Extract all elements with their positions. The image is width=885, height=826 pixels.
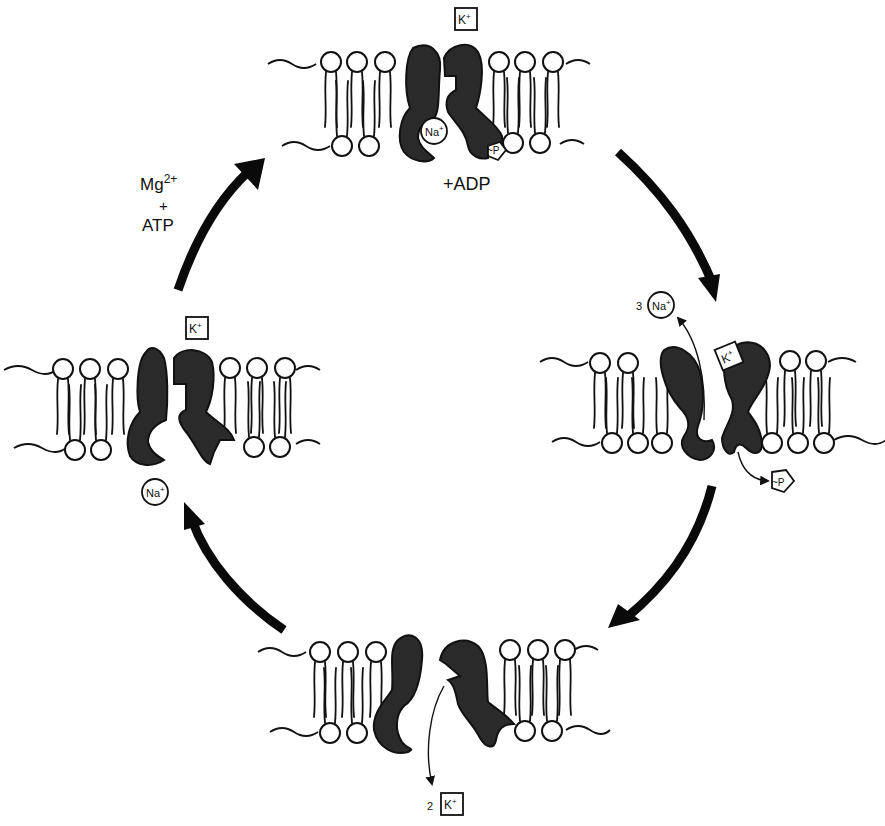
na-k-pump-cycle-diagram: Na+ ~P K+ +ADP K+ <box>0 0 885 826</box>
arrowhead <box>698 274 720 302</box>
phosphate-label: ~P <box>487 145 500 156</box>
state-right: K+ Na+ 3 ~P <box>540 292 885 492</box>
adp-label: +ADP <box>443 174 491 194</box>
na-count-label: 3 <box>636 300 642 312</box>
state-left: K+ Na+ <box>4 317 320 505</box>
pump-subunit-left <box>128 348 168 465</box>
svg-text:ATP: ATP <box>142 216 174 235</box>
cycle-arrow-left-to-top <box>178 172 248 290</box>
cycle-arrow-right-to-bottom <box>626 486 712 618</box>
phosphate-release-arrow <box>738 452 768 481</box>
k-count-label: 2 <box>427 800 433 812</box>
svg-text:+: + <box>159 197 168 214</box>
cycle-arrow-top-to-right <box>618 152 712 282</box>
cofactor-label: Mg2+ + ATP <box>140 172 177 235</box>
svg-text:Mg2+: Mg2+ <box>140 172 177 194</box>
phosphate-label: ~P <box>772 477 785 488</box>
membrane-wave <box>566 60 590 64</box>
k-release-arrow <box>428 686 444 784</box>
state-bottom: K+ 2 <box>258 635 610 815</box>
state-top: Na+ ~P K+ +ADP <box>268 8 590 194</box>
lipid <box>321 52 341 127</box>
cycle-arrow-bottom-to-left <box>192 520 284 630</box>
membrane-wave <box>282 142 330 150</box>
membrane-wave <box>268 60 316 68</box>
membrane-wave <box>560 140 584 144</box>
arrowhead <box>184 502 205 530</box>
